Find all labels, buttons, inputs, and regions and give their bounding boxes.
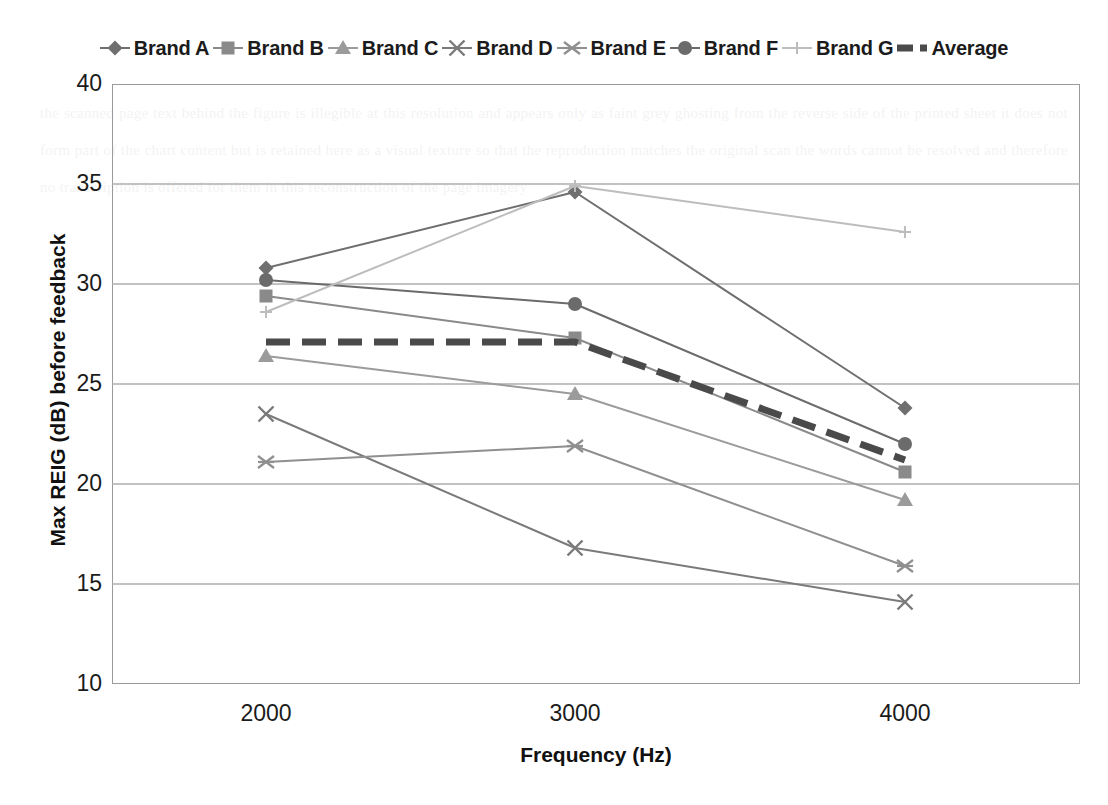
series-line: [266, 414, 905, 602]
marker-circle: [898, 437, 912, 451]
marker-square: [899, 466, 912, 479]
series-line: [266, 446, 905, 566]
marker-diamond: [898, 401, 913, 416]
x-tick-2000: 2000: [196, 700, 336, 727]
x-axis-title: Frequency (Hz): [112, 743, 1080, 767]
marker-asterisk: [897, 560, 913, 572]
marker-square: [260, 290, 273, 303]
x-tick-4000: 4000: [835, 700, 975, 727]
series-line: [266, 192, 905, 408]
series-line: [266, 186, 905, 312]
y-axis-title: Max REIG (dB) before feedback: [46, 90, 70, 690]
marker-cross-x: [259, 407, 274, 422]
series-average: [266, 342, 905, 460]
marker-circle: [259, 273, 273, 287]
marker-triangle: [258, 348, 274, 362]
marker-asterisk: [567, 440, 583, 452]
series-brand-d: [259, 407, 913, 610]
chart-container: the scanned page text behind the figure …: [0, 0, 1108, 805]
series-brand-e: [258, 440, 913, 572]
series-brand-g: [260, 180, 911, 318]
marker-plus: [260, 306, 272, 318]
series-line: [266, 342, 905, 460]
series-line: [266, 280, 905, 444]
marker-circle: [568, 297, 582, 311]
x-tick-3000: 3000: [505, 700, 645, 727]
marker-plus: [899, 226, 911, 238]
marker-asterisk: [258, 456, 274, 468]
chart-canvas: [0, 0, 1108, 805]
gridlines: [112, 184, 1080, 584]
